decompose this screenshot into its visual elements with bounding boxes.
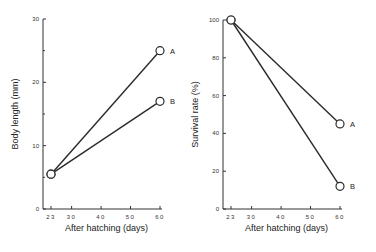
data-point-marker	[47, 170, 55, 178]
x-tick-label: 60	[155, 214, 165, 220]
x-tick-label: 23	[226, 214, 236, 220]
data-point-marker	[156, 47, 164, 55]
y-axis-title: Survival rate (%)	[190, 81, 200, 148]
y-tick-label: 0	[216, 206, 220, 212]
x-tick-label: 50	[126, 214, 136, 220]
data-point-marker	[336, 120, 344, 128]
series-label-A: A	[170, 47, 175, 56]
y-tick-label: 20	[212, 168, 219, 174]
x-tick-label: 30	[247, 214, 257, 220]
x-axis-title: After hatching (days)	[65, 223, 148, 233]
series-line-A	[231, 20, 340, 124]
y-tick-label: 30	[32, 16, 39, 22]
y-tick-label: 20	[32, 79, 39, 85]
x-tick-label: 50	[306, 214, 316, 220]
y-tick-label: 10	[32, 143, 39, 149]
series-label-B: B	[170, 97, 175, 106]
x-tick-label: 40	[96, 214, 106, 220]
chart-panel-1: 01020302330405060After hatching (days)Bo…	[10, 16, 175, 233]
x-axis-title: After hatching (days)	[245, 223, 328, 233]
y-tick-label: 100	[209, 17, 220, 23]
data-point-marker	[336, 182, 344, 190]
x-tick-label: 40	[276, 214, 286, 220]
series-label-A: A	[350, 120, 355, 129]
y-tick-label: 40	[212, 130, 219, 136]
series-label-B: B	[350, 182, 355, 191]
y-tick-label: 80	[212, 55, 219, 61]
data-point-marker	[156, 97, 164, 105]
y-axis-title: Body length (mm)	[10, 78, 20, 149]
y-tick-label: 60	[212, 93, 219, 99]
chart-panel-2: 0204060801002330405060After hatching (da…	[190, 16, 355, 233]
series-line-B	[231, 20, 340, 186]
data-point-marker	[227, 16, 235, 24]
figure: 01020302330405060After hatching (days)Bo…	[0, 0, 376, 252]
x-tick-label: 30	[67, 214, 77, 220]
x-tick-label: 60	[335, 214, 345, 220]
y-tick-label: 0	[36, 206, 40, 212]
x-tick-label: 23	[46, 214, 56, 220]
